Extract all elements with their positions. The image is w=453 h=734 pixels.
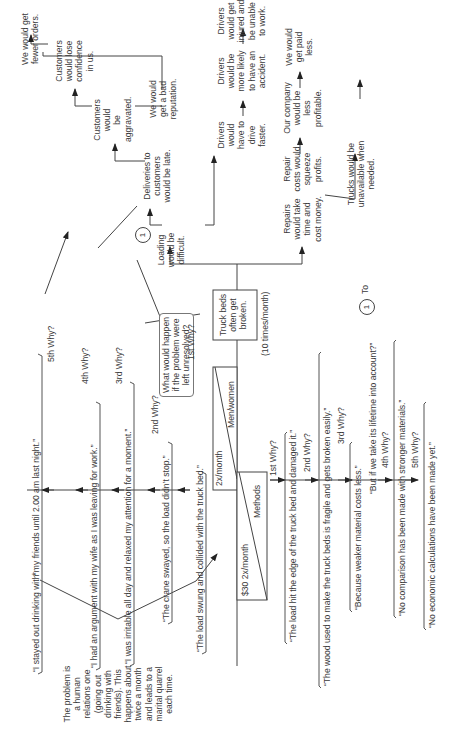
bubble-line: What would happen xyxy=(161,317,171,393)
method-answer-1: “The load hit the edge of the truck bed … xyxy=(288,430,298,642)
method-why-5: 5th Why? xyxy=(410,432,420,468)
core-problem-line: Truck beds xyxy=(218,292,228,338)
consequence-aggravated: Customerswouldbeaggravated. xyxy=(92,98,133,142)
human-why-4: 4th Why? xyxy=(80,348,90,384)
consequence-loading: Loadingwould bedifficult. xyxy=(156,226,187,274)
consequence-paid-less: We wouldget paidless. xyxy=(284,24,315,70)
human-why-5: 5th Why? xyxy=(46,326,56,362)
method-aside: “But if we take its lifetime into accoun… xyxy=(368,343,378,494)
method-why-1: 1st Why? xyxy=(268,440,278,476)
core-problem-frequency: (10 times/month) xyxy=(260,292,270,356)
consequence-repair-costs: Repaircosts wouldsqueezeprofits. xyxy=(282,144,323,194)
cause-men-women-label: Men/women xyxy=(226,381,236,428)
consequence-lose-confidence: Customerswould loseconfidencein us. xyxy=(54,36,95,86)
human-why-3: 3rd Why? xyxy=(114,347,124,384)
core-problem-line: broken. xyxy=(238,292,248,338)
method-answer-3: “Because weaker material costs less.” xyxy=(353,465,363,610)
consequence-repairs: Repairswould taketime andcost money. xyxy=(282,194,323,244)
core-problem-box: Truck beds often get broken. xyxy=(218,292,249,338)
to-label: To xyxy=(360,285,370,294)
consequence-less-profitable: Our companywould belessprofitable. xyxy=(282,80,323,136)
method-answer-2: “The wood used to make the truck beds is… xyxy=(322,408,332,686)
human-answer-4: “I had an argument with my wife as I was… xyxy=(89,444,99,668)
method-why-2: 2nd Why? xyxy=(302,433,312,472)
consequence-bad-reputation: We wouldget a badreputation. xyxy=(148,74,179,124)
human-why-2: 2nd Why? xyxy=(150,395,160,434)
human-problem-note: The problem isa humanrelations one(going… xyxy=(62,658,174,730)
human-answer-3: “I was irritable all day and relaxed my … xyxy=(123,429,133,664)
core-problem-line: often get xyxy=(228,292,238,338)
connector-circle-1-target: 1 xyxy=(359,299,375,315)
consequence-injured: Driverswould getinjured andbe unableto w… xyxy=(216,0,267,46)
consequence-deliveries: Deliveries tocustomerswould be late. xyxy=(142,146,173,206)
consequence-drive-faster: Driverswouldhave todrivefaster. xyxy=(216,116,267,154)
cause-methods-frequency: $30 2x/month xyxy=(240,544,250,596)
human-why-1: 1st Why? xyxy=(186,324,196,360)
human-answer-1: “The load swung and collided with the tr… xyxy=(195,465,205,652)
cause-methods-label: Methods xyxy=(252,485,262,518)
human-answer-2: “The crane swayed, so the load didn’t st… xyxy=(161,455,171,622)
consequence-unavailable: Trucks would beunavailable whenneeded. xyxy=(346,134,377,214)
cause-men-women-frequency: 2x/month xyxy=(214,451,224,486)
connector-circle-1: 1 xyxy=(135,227,151,243)
asterisk-marker: * xyxy=(32,572,42,576)
bubble-line: if the problem were xyxy=(171,317,181,393)
diagram-connectors xyxy=(0,0,453,734)
why-why-diagram: Truck beds often get broken. (10 times/m… xyxy=(0,0,453,734)
method-why-3: 3rd Why? xyxy=(336,407,346,444)
human-answer-5: “I stayed out drinking with my friends u… xyxy=(31,439,41,672)
consequence-fewer-orders: We would getfewer orders. xyxy=(20,5,40,73)
method-answer-4: “No comparison has been made with strong… xyxy=(397,400,407,616)
consequence-accident: Driverswould bemore likelyto have anacci… xyxy=(216,44,267,98)
method-why-4: 4th Why? xyxy=(380,432,390,468)
method-answer-5: “No economic calculations have been made… xyxy=(427,442,437,628)
